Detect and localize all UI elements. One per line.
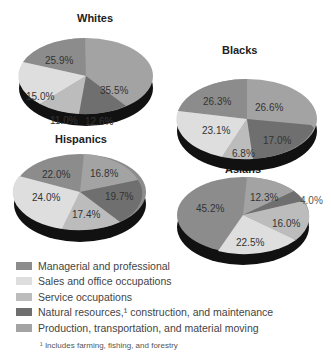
pie-whites: 25.9% 35.5% 12.6% 11.0% 15.0% [18, 38, 153, 127]
slice-label: 11.0% [50, 115, 78, 126]
slice-label: 17.4% [72, 209, 100, 220]
legend-item: Production, transportation, and material… [16, 320, 273, 336]
slice-label: 23.1% [202, 125, 230, 136]
slice-label: 19.7% [105, 191, 133, 202]
pie-blacks: 26.3% 26.6% 17.0% 6.8% 23.1% [176, 79, 317, 171]
slice-label: 16.8% [90, 168, 118, 179]
legend-item: Sales and office occupations [16, 274, 273, 290]
slice-label: 35.5% [100, 85, 128, 96]
slice-label: 45.2% [196, 203, 224, 214]
legend: Managerial and professional Sales and of… [16, 258, 273, 336]
slice-label: 22.5% [236, 237, 264, 248]
slice-label: 4.0% [300, 195, 323, 206]
slice-label: 12.3% [250, 192, 278, 203]
pie-hispanics: 22.0% 16.8% 19.7% 17.4% 24.0% [13, 154, 146, 242]
footnote: ¹ Includes farming, fishing, and forestr… [40, 341, 178, 350]
slice-label: 24.0% [32, 192, 60, 203]
slice-label: 12.6% [85, 116, 113, 127]
pie-asians: 45.2% 12.3% 4.0% 16.0% 22.5% [177, 177, 323, 265]
slice-label: 26.6% [255, 102, 283, 113]
slice-label: 15.0% [26, 91, 54, 102]
slice-label: 16.0% [272, 218, 300, 229]
slice-label: 26.3% [203, 96, 231, 107]
slice-label: 22.0% [42, 169, 70, 180]
legend-item: Natural resources,¹ construction, and ma… [16, 305, 273, 321]
slice-label: 6.8% [232, 148, 255, 159]
legend-item: Managerial and professional [16, 258, 273, 274]
slice-label: 25.9% [45, 55, 73, 66]
legend-item: Service occupations [16, 289, 273, 305]
slice-label: 17.0% [263, 135, 291, 146]
